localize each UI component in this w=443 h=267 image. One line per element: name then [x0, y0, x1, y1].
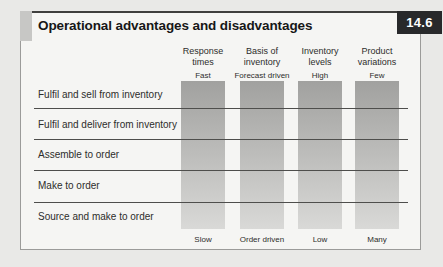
row-label-fulfil-and-sell: Fulfil and sell from inventory	[38, 88, 163, 102]
column-header-line: variations	[332, 57, 422, 68]
row-label-make-to-order: Make to order	[38, 179, 100, 193]
column-header-product-variations: Product variations	[332, 46, 422, 67]
row-divider	[34, 139, 408, 140]
row-label-fulfil-and-deliver: Fulfil and deliver from inventory	[38, 118, 177, 132]
figure-title: Operational advantages and disadvantages	[38, 18, 312, 33]
scale-bottom-label-many: Many	[332, 235, 422, 244]
figure-panel: 14.6 Operational advantages and disadvan…	[20, 11, 421, 250]
row-label-assemble-to-order: Assemble to order	[38, 148, 119, 162]
column-header-line: Product	[332, 46, 422, 57]
corner-tab	[20, 11, 32, 41]
row-divider	[34, 108, 408, 109]
row-divider	[34, 170, 408, 171]
figure-number-badge: 14.6	[397, 11, 442, 34]
row-label-source-and-make: Source and make to order	[38, 210, 154, 224]
gradient-bar-inventory-levels	[298, 81, 342, 229]
row-divider	[34, 202, 408, 203]
scale-top-label-few: Few	[332, 71, 422, 80]
gradient-bar-product-variations	[355, 81, 399, 229]
gradient-bar-response-times	[181, 81, 225, 229]
gradient-bar-basis-of-inventory	[240, 81, 284, 229]
